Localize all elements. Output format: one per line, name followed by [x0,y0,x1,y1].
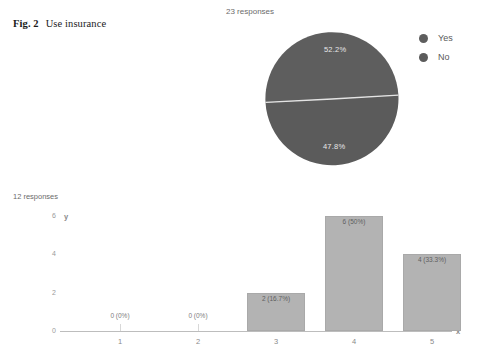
y-axis-label: y [64,212,68,221]
legend-label-no: No [438,52,450,62]
x-tick-mark-1 [120,324,121,331]
x-tick-label-2: 2 [183,337,213,346]
legend-item-yes[interactable]: Yes [419,30,453,46]
x-tick-mark-2 [198,324,199,331]
legend-swatch-yes-icon [419,34,428,43]
y-tick-label: 6 [42,212,56,219]
bar-value-label-1: 0 (0%) [80,312,160,319]
y-tick-2: 2 [40,289,56,298]
y-tick-6: 6 [40,212,56,221]
y-tick-label: 0 [42,327,56,334]
y-tick-4: 4 [40,250,56,259]
bar-category-4[interactable] [325,216,383,331]
x-tick-label-4: 4 [339,337,369,346]
x-tick-label-1: 1 [105,337,135,346]
bar-chart-panel: 12 responses y x 6 4 2 0 0 (0%) [0,188,482,352]
x-tick-label-3: 3 [261,337,291,346]
pie-slice-yes [265,32,398,102]
y-tick-label: 2 [42,289,56,296]
pie-chart-panel: 23 responses 52.2% 47.8% Yes No [224,4,482,180]
bar-value-label-4: 6 (50%) [314,218,394,225]
figure-title: Use insurance [46,18,107,29]
x-axis-line [60,331,452,332]
pie-chart: 52.2% 47.8% [265,32,399,166]
bar-value-label-2: 0 (0%) [158,312,238,319]
legend-swatch-no-icon [419,53,428,62]
pie-response-count: 23 responses [226,7,274,16]
figure-caption: Fig. 2Use insurance [13,18,106,29]
bar-value-label-3: 2 (16.7%) [236,295,316,302]
figure-number: Fig. 2 [13,18,39,29]
y-tick-label: 4 [42,250,56,257]
legend-item-no[interactable]: No [419,49,453,65]
y-tick-0: 0 [40,327,56,336]
x-tick-label-5: 5 [417,337,447,346]
bar-value-label-5: 4 (33.3%) [392,256,472,263]
pie-slice-no [266,95,399,165]
legend-label-yes: Yes [438,33,453,43]
pie-label-no: 47.8% [323,142,345,151]
pie-label-yes: 52.2% [324,45,346,54]
bar-chart-plot-area: y x 6 4 2 0 0 (0%) 0 (0%) 2 (16.7%) [0,188,482,352]
bar-category-5[interactable] [403,254,461,331]
pie-legend: Yes No [419,30,453,68]
